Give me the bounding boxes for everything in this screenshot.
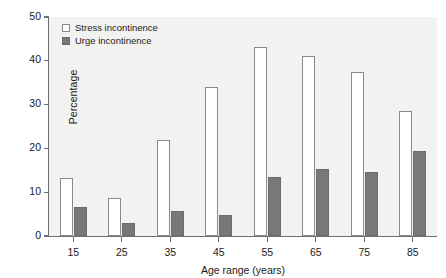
bar-stress-25	[108, 198, 121, 236]
chart-legend: Stress incontinenceUrge incontinence	[62, 21, 158, 47]
x-tick-mark	[121, 237, 122, 242]
bar-stress-85	[399, 111, 412, 236]
bar-urge-45	[219, 215, 232, 236]
y-tick-mark	[44, 104, 49, 105]
x-tick-label: 85	[398, 246, 428, 258]
y-tick-label: 30	[29, 97, 41, 109]
x-tick-label: 35	[155, 246, 185, 258]
y-tick-label: 40	[29, 53, 41, 65]
bar-stress-15	[60, 178, 73, 236]
bar-stress-65	[302, 56, 315, 236]
legend-swatch-urge-icon	[62, 37, 70, 45]
x-tick-label: 65	[301, 246, 331, 258]
bar-urge-65	[316, 169, 329, 236]
x-tick-mark	[267, 237, 268, 242]
bar-urge-85	[413, 151, 426, 236]
x-tick-mark	[218, 237, 219, 242]
plot-area: 01020304050 1525354555657585 Percentage …	[48, 17, 437, 237]
x-tick-label: 55	[252, 246, 282, 258]
bar-chart-figure: 01020304050 1525354555657585 Percentage …	[0, 0, 446, 278]
bar-stress-45	[205, 87, 218, 236]
bar-urge-75	[365, 172, 378, 236]
x-tick-mark	[170, 237, 171, 242]
legend-item-label: Urge incontinence	[75, 35, 152, 46]
legend-item: Stress incontinence	[62, 21, 158, 34]
y-axis-title: Percentage	[67, 37, 79, 157]
x-tick-mark	[315, 237, 316, 242]
bar-urge-55	[268, 177, 281, 236]
y-tick-mark	[44, 16, 49, 17]
bar-stress-55	[254, 47, 267, 236]
bar-urge-35	[171, 211, 184, 236]
y-tick-mark	[44, 60, 49, 61]
y-tick-mark	[44, 235, 49, 236]
y-tick-mark	[44, 192, 49, 193]
legend-item: Urge incontinence	[62, 34, 158, 47]
bar-urge-15	[74, 207, 87, 236]
x-tick-mark	[364, 237, 365, 242]
x-tick-mark	[412, 237, 413, 242]
bar-stress-35	[157, 140, 170, 236]
y-tick-label: 10	[29, 185, 41, 197]
bar-stress-75	[351, 72, 364, 236]
y-tick-label: 20	[29, 141, 41, 153]
legend-swatch-stress-icon	[62, 24, 70, 32]
y-tick-label: 50	[29, 10, 41, 22]
x-tick-label: 25	[107, 246, 137, 258]
bar-urge-25	[122, 223, 135, 236]
y-tick-mark	[44, 148, 49, 149]
y-tick-label: 0	[35, 229, 41, 241]
x-tick-label: 45	[204, 246, 234, 258]
x-tick-label: 15	[58, 246, 88, 258]
x-axis-title: Age range (years)	[49, 264, 437, 276]
x-tick-mark	[73, 237, 74, 242]
x-tick-label: 75	[349, 246, 379, 258]
legend-item-label: Stress incontinence	[75, 22, 158, 33]
